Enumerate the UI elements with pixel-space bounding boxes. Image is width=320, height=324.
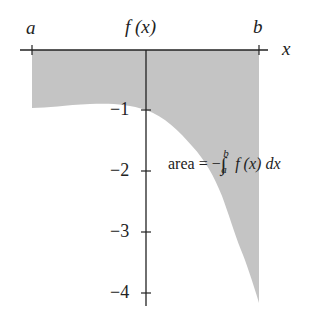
y-axis-label: f (x) [125,16,156,38]
x-axis-label: x [282,38,290,60]
integral-lower-limit: a [221,163,227,175]
y-tick-label-1: −1 [110,99,129,120]
b-label: b [253,16,263,38]
area-annotation: area = −∫baf (x) dx [168,151,280,174]
y-tick-label-4: −4 [110,282,129,303]
integral-upper-limit: b [223,147,229,159]
a-label: a [26,17,36,39]
integrand: f (x) dx [235,155,280,172]
y-tick-label-3: −3 [110,221,129,242]
annotation-prefix: area = − [168,155,221,172]
y-tick-label-2: −2 [110,160,129,181]
